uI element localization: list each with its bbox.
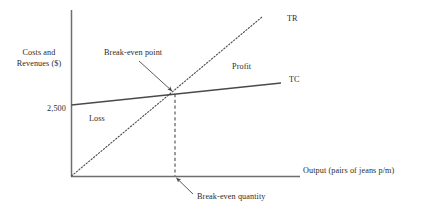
break-even-point-arrow — [139, 61, 172, 91]
total-revenue-line — [72, 17, 263, 176]
y-axis-title: Costs and Revenues ($) — [8, 48, 70, 69]
profit-region-label: Profit — [232, 62, 251, 73]
total-cost-label: TC — [289, 75, 300, 86]
total-revenue-label: TR — [287, 14, 298, 25]
break-even-quantity-arrow — [177, 178, 194, 194]
y-axis-value-label: 2,500 — [18, 104, 66, 115]
total-cost-line — [72, 83, 282, 105]
break-even-point-label: Break-even point — [104, 48, 162, 59]
loss-region-label: Loss — [89, 114, 105, 125]
x-axis-title: Output (pairs of jeans p/m) — [303, 166, 394, 177]
break-even-chart: Costs and Revenues ($) 2,500 Output (pai… — [0, 0, 423, 215]
break-even-quantity-label: Break-even quantity — [197, 192, 266, 203]
